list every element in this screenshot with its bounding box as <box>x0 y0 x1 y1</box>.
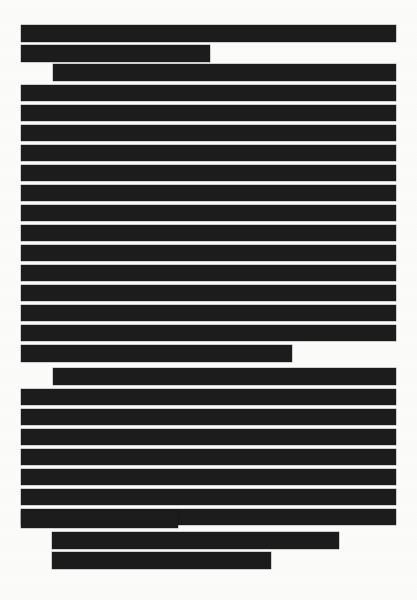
redaction-bar: REDACTED <box>21 85 396 101</box>
redaction-bar: REDACTED <box>21 205 396 221</box>
redaction-label: REDACTED <box>21 509 22 510</box>
redaction-bar: REDACTED <box>21 389 396 405</box>
redaction-bar: REDACTED <box>21 165 396 181</box>
redaction-bar: REDACTED <box>21 105 396 121</box>
redaction-label: REDACTED <box>21 105 22 106</box>
redaction-label: REDACTED <box>21 25 22 26</box>
redaction-label: REDACTED <box>21 225 22 226</box>
redaction-label: REDACTED <box>21 305 22 306</box>
redaction-label: REDACTED <box>21 429 22 430</box>
redaction-label: REDACTED <box>53 64 54 65</box>
redaction-label: REDACTED <box>21 511 22 512</box>
redaction-label: REDACTED <box>21 345 22 346</box>
redaction-label: REDACTED <box>21 325 22 326</box>
redaction-bar: REDACTED <box>21 409 396 425</box>
redaction-bar: REDACTED <box>21 45 210 62</box>
redaction-bar: REDACTED <box>21 265 396 281</box>
redaction-bar: REDACTED <box>21 489 396 505</box>
redaction-label: REDACTED <box>21 449 22 450</box>
redaction-bar: REDACTED <box>21 245 396 261</box>
redaction-bar: REDACTED <box>21 469 396 485</box>
redaction-bar: REDACTED <box>52 552 271 569</box>
redaction-label: REDACTED <box>21 145 22 146</box>
redaction-label: REDACTED <box>21 409 22 410</box>
redaction-bar: REDACTED <box>21 429 396 445</box>
redaction-label: REDACTED <box>21 185 22 186</box>
redaction-bar: REDACTED <box>52 532 339 549</box>
redaction-label: REDACTED <box>21 265 22 266</box>
redaction-bar: REDACTED <box>21 325 396 341</box>
redaction-label: REDACTED <box>21 125 22 126</box>
redaction-label: REDACTED <box>21 85 22 86</box>
redaction-label: REDACTED <box>21 469 22 470</box>
redaction-bar: REDACTED <box>21 225 396 241</box>
redaction-bar: REDACTED <box>21 449 396 465</box>
redaction-bar: REDACTED <box>21 345 292 362</box>
redaction-bar: REDACTED <box>21 25 396 42</box>
redaction-label: REDACTED <box>21 285 22 286</box>
redaction-label: REDACTED <box>52 532 53 533</box>
document-page: REDACTEDREDACTEDREDACTEDREDACTEDREDACTED… <box>0 0 417 600</box>
redaction-bar: REDACTED <box>21 125 396 141</box>
redaction-bar: REDACTED <box>53 64 396 81</box>
redaction-bar: REDACTED <box>21 145 396 161</box>
redaction-bar: REDACTED <box>21 511 178 528</box>
redaction-bar: REDACTED <box>21 185 396 201</box>
redaction-label: REDACTED <box>21 245 22 246</box>
redaction-bar: REDACTED <box>53 368 396 385</box>
redaction-label: REDACTED <box>21 489 22 490</box>
redaction-label: REDACTED <box>21 45 22 46</box>
redaction-label: REDACTED <box>21 165 22 166</box>
redaction-label: REDACTED <box>21 389 22 390</box>
redaction-label: REDACTED <box>21 205 22 206</box>
redaction-bar: REDACTED <box>21 285 396 301</box>
redaction-label: REDACTED <box>53 368 54 369</box>
redaction-bar: REDACTED <box>21 305 396 321</box>
redaction-label: REDACTED <box>52 552 53 553</box>
